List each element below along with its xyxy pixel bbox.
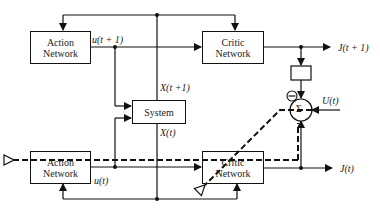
critic-bottom-line1: Critic (222, 157, 245, 168)
critic-top-line2: Network (216, 48, 251, 59)
system-label: System (144, 107, 173, 118)
label-j-now: J(t) (340, 163, 354, 174)
action-network-bottom: ActionNetwork (30, 151, 91, 184)
label-utility: U(t) (322, 95, 339, 106)
critic-network-bottom: CriticNetwork (202, 151, 264, 184)
action-top-line2: Network (43, 48, 78, 59)
action-top-line1: Action (47, 37, 74, 48)
critic-top-line1: Critic (222, 37, 245, 48)
label-j-next: J(t + 1) (338, 42, 369, 53)
delay-block (291, 66, 311, 80)
label-x-now: X(t) (160, 127, 176, 138)
system-block: System (132, 100, 186, 124)
label-u-now: u(t) (94, 175, 108, 186)
action-bottom-line2: Network (43, 168, 78, 179)
label-x-next: X(t +1) (160, 82, 190, 93)
label-u-next: u(t + 1) (92, 34, 123, 45)
critic-bottom-line2: Network (216, 168, 251, 179)
action-network-top: ActionNetwork (30, 31, 91, 64)
critic-network-top: CriticNetwork (202, 31, 264, 64)
action-bottom-line1: Action (47, 157, 74, 168)
sum-label: Σ (296, 103, 302, 114)
